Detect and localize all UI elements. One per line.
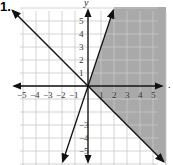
y-tick-label: −3 [79, 120, 89, 130]
y-tick-label: 2 [79, 55, 84, 65]
x-tick-label: −4 [30, 90, 40, 100]
x-tick-label: −1 [69, 90, 79, 100]
y-tick-label: 5 [79, 16, 84, 26]
x-tick-label: −3 [43, 90, 53, 100]
y-tick-label: 3 [79, 42, 84, 52]
y-axis-label: y [83, 0, 89, 8]
x-tick-label: −5 [17, 90, 27, 100]
y-tick-label: 1 [79, 68, 84, 78]
x-tick-label: 5 [151, 90, 156, 100]
x-tick-label: 3 [125, 90, 130, 100]
coordinate-graph: −5−4−3−2−11234554321−3−4−5 y . [0, 0, 173, 165]
y-tick-label: −5 [79, 146, 89, 156]
x-tick-label: 2 [112, 90, 117, 100]
x-tick-label: 4 [138, 90, 143, 100]
y-tick-label: −4 [79, 133, 89, 143]
trailing-period: . [168, 79, 171, 90]
y-tick-label: 4 [79, 29, 84, 39]
x-tick-label: −2 [56, 90, 66, 100]
